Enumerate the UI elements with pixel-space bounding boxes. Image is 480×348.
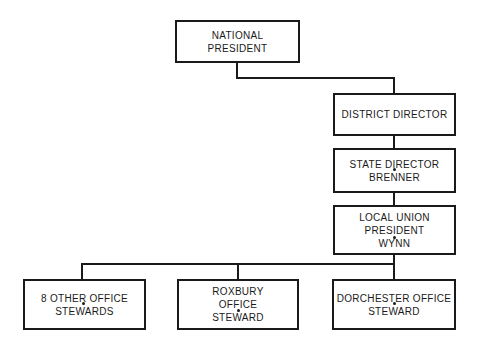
node-local-union-president: LOCAL UNION PRESIDENT WYNN	[333, 205, 456, 255]
node-district-director: DISTRICT DIRECTOR	[333, 93, 456, 136]
marker-dot	[82, 302, 85, 305]
node-label-line: NATIONAL	[212, 29, 264, 42]
node-label-line: PRESIDENT	[365, 224, 425, 237]
node-label-line: STEWARD	[368, 305, 420, 318]
connector-national-to-district-drop	[393, 77, 395, 94]
marker-dot	[393, 236, 396, 239]
marker-dot	[393, 168, 396, 171]
node-label-line: BRENNER	[369, 171, 420, 184]
connector-national-to-district-horizontal	[236, 77, 395, 79]
node-national-president: NATIONAL PRESIDENT	[175, 20, 300, 63]
node-label-line: STEWARD	[212, 311, 264, 324]
connector-to-other-stewards	[81, 263, 83, 280]
node-label-line: PRESIDENT	[208, 42, 268, 55]
marker-dot	[237, 309, 240, 312]
node-label-line: ROXBURY	[212, 285, 263, 298]
connector-to-roxbury	[237, 263, 239, 280]
node-roxbury-office-steward: ROXBURY OFFICE STEWARD	[177, 279, 299, 330]
node-label-line: STEWARDS	[55, 305, 114, 318]
connector-state-to-local	[393, 192, 395, 206]
connector-local-down	[393, 254, 395, 280]
node-label-line: LOCAL UNION	[359, 211, 430, 224]
connector-district-to-state	[393, 135, 395, 149]
node-label-line: DISTRICT DIRECTOR	[342, 108, 448, 121]
marker-dot	[393, 302, 396, 305]
